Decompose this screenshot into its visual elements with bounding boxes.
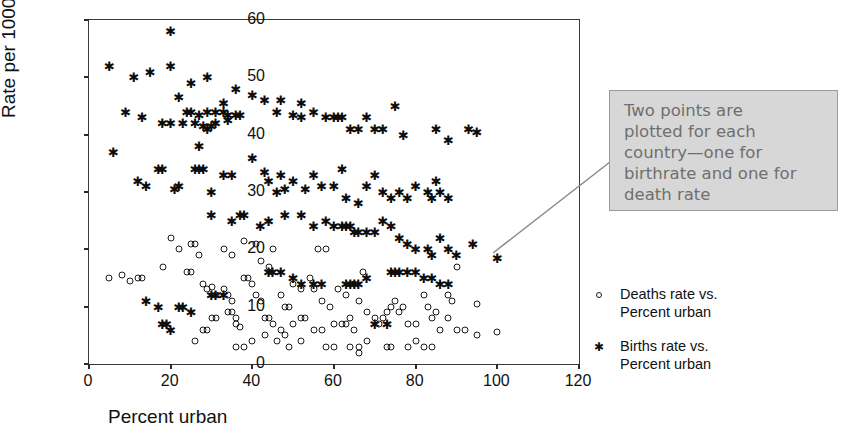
y-axis-tick — [84, 19, 89, 21]
data-point-deaths — [347, 315, 354, 322]
data-point-births: ✱ — [207, 188, 216, 197]
data-point-deaths — [228, 297, 235, 304]
data-point-births: ✱ — [272, 107, 281, 116]
data-point-births: ✱ — [227, 170, 236, 179]
data-point-births: ✱ — [432, 124, 441, 133]
legend-entry[interactable]: Deaths rate vs. Percent urban — [588, 285, 838, 321]
data-point-births: ✱ — [158, 165, 167, 174]
data-point-deaths — [286, 343, 293, 350]
data-point-deaths — [261, 332, 268, 339]
data-point-deaths — [351, 280, 358, 287]
data-point-deaths — [412, 320, 419, 327]
data-point-births: ✱ — [370, 170, 379, 179]
data-point-births: ✱ — [211, 119, 220, 128]
data-point-deaths — [429, 343, 436, 350]
data-point-births: ✱ — [232, 84, 241, 93]
data-point-deaths — [318, 297, 325, 304]
data-point-deaths — [355, 297, 362, 304]
data-point-deaths — [196, 252, 203, 259]
data-point-deaths — [208, 283, 215, 290]
data-point-births: ✱ — [166, 27, 175, 36]
data-point-deaths — [249, 280, 256, 287]
data-point-births: ✱ — [146, 67, 155, 76]
data-point-deaths — [249, 338, 256, 345]
y-axis-tick — [84, 248, 89, 250]
x-axis-tick — [170, 364, 172, 369]
legend-entry-label: Births rate vs. Percent urban — [620, 338, 711, 372]
data-point-deaths — [212, 292, 219, 299]
data-point-deaths — [167, 234, 174, 241]
data-point-deaths — [359, 269, 366, 276]
data-point-deaths — [420, 343, 427, 350]
data-point-deaths — [286, 303, 293, 310]
data-point-births: ✱ — [276, 268, 285, 277]
plot-frame: ✱✱✱✱✱✱✱✱✱✱✱✱✱✱✱✱✱✱✱✱✱✱✱✱✱✱✱✱✱✱✱✱✱✱✱✱✱✱✱✱… — [88, 19, 580, 365]
data-point-deaths — [453, 263, 460, 270]
x-axis-tick-label: 120 — [565, 372, 592, 390]
y-axis-tick — [84, 76, 89, 78]
data-point-births: ✱ — [166, 325, 175, 334]
data-point-deaths — [126, 277, 133, 284]
data-point-births: ✱ — [240, 210, 249, 219]
data-point-births: ✱ — [444, 136, 453, 145]
data-point-births: ✱ — [142, 296, 151, 305]
data-point-births: ✱ — [248, 90, 257, 99]
data-point-births: ✱ — [399, 130, 408, 139]
data-point-deaths — [237, 323, 244, 330]
data-point-births: ✱ — [187, 308, 196, 317]
data-point-deaths — [314, 246, 321, 253]
data-point-births: ✱ — [354, 124, 363, 133]
x-axis-tick — [415, 364, 417, 369]
plot-area: ✱✱✱✱✱✱✱✱✱✱✱✱✱✱✱✱✱✱✱✱✱✱✱✱✱✱✱✱✱✱✱✱✱✱✱✱✱✱✱✱… — [89, 20, 579, 364]
data-point-deaths — [388, 343, 395, 350]
data-point-deaths — [298, 286, 305, 293]
y-axis-title: Rate per 1000 — [0, 0, 20, 118]
data-point-deaths — [302, 315, 309, 322]
x-axis-title: Percent urban — [108, 406, 227, 428]
data-point-deaths — [192, 240, 199, 247]
y-axis-tick-label: 20 — [247, 239, 265, 257]
y-axis-tick-label: 10 — [247, 297, 265, 315]
data-point-births: ✱ — [472, 127, 481, 136]
data-point-deaths — [404, 320, 411, 327]
data-point-births: ✱ — [309, 107, 318, 116]
data-point-deaths — [335, 286, 342, 293]
data-point-deaths — [310, 286, 317, 293]
data-point-births: ✱ — [338, 165, 347, 174]
data-point-deaths — [322, 246, 329, 253]
data-point-births: ✱ — [370, 228, 379, 237]
data-point-deaths — [192, 338, 199, 345]
data-point-deaths — [363, 338, 370, 345]
data-point-deaths — [433, 309, 440, 316]
data-point-births: ✱ — [207, 210, 216, 219]
circle-marker-icon — [592, 288, 606, 302]
data-point-deaths — [273, 338, 280, 345]
data-point-births: ✱ — [264, 216, 273, 225]
data-point-deaths — [290, 320, 297, 327]
data-point-births: ✱ — [129, 73, 138, 82]
x-axis-tick-label: 20 — [161, 372, 179, 390]
annotation-callout-box: Two points are plotted for each country—… — [609, 90, 838, 211]
data-point-births: ✱ — [260, 96, 269, 105]
data-point-births: ✱ — [187, 79, 196, 88]
x-axis-tick — [333, 364, 335, 369]
data-point-births: ✱ — [379, 124, 388, 133]
data-point-deaths — [449, 297, 456, 304]
data-point-births: ✱ — [199, 165, 208, 174]
y-axis-tick-label: 40 — [247, 125, 265, 143]
data-point-deaths — [204, 326, 211, 333]
y-axis-tick-label: 50 — [247, 67, 265, 85]
data-point-deaths — [355, 349, 362, 356]
x-axis-tick-label: 40 — [242, 372, 260, 390]
data-point-deaths — [220, 246, 227, 253]
data-point-deaths — [188, 269, 195, 276]
legend-entry[interactable]: ✱Births rate vs. Percent urban — [588, 337, 838, 373]
data-point-deaths — [282, 332, 289, 339]
data-point-deaths — [331, 343, 338, 350]
y-axis-tick — [84, 191, 89, 193]
x-axis-tick — [251, 364, 253, 369]
y-axis-tick — [84, 134, 89, 136]
annotation-callout-text: Two points are plotted for each country—… — [624, 100, 825, 205]
data-point-births: ✱ — [452, 251, 461, 260]
data-point-births: ✱ — [444, 279, 453, 288]
